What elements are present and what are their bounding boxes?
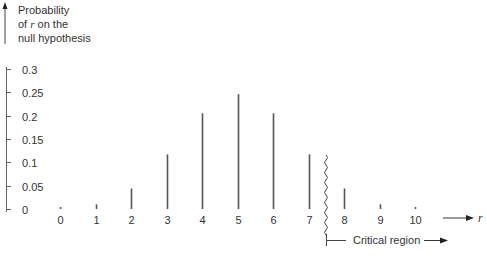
x-tick-label: 8 xyxy=(341,214,347,226)
y-tick-label: 0.2 xyxy=(22,111,37,123)
y-axis-ticks: 00.050.10.150.20.250.3 xyxy=(7,64,44,216)
bars xyxy=(61,94,416,209)
y-tick-label: 0.05 xyxy=(22,181,43,193)
x-tick-label: 4 xyxy=(199,214,205,226)
probability-chart: 00.050.10.150.20.250.3 012345678910 r Cr… xyxy=(0,0,487,258)
y-tick-label: 0.15 xyxy=(22,134,43,146)
y-tick-label: 0.1 xyxy=(22,157,37,169)
critical-boundary-wavy-line xyxy=(325,155,328,235)
critical-region-arrow-icon xyxy=(424,238,448,244)
x-tick-label: 1 xyxy=(93,214,99,226)
x-tick-label: 3 xyxy=(164,214,170,226)
x-tick-label: 0 xyxy=(57,214,63,226)
x-tick-label: 2 xyxy=(128,214,134,226)
x-axis-variable: r xyxy=(478,211,483,225)
x-tick-label: 9 xyxy=(377,214,383,226)
x-tick-label: 5 xyxy=(235,214,241,226)
x-tick-label: 10 xyxy=(409,214,421,226)
x-axis-arrow-icon xyxy=(443,215,474,221)
x-tick-label: 6 xyxy=(270,214,276,226)
y-tick-label: 0.3 xyxy=(22,64,37,76)
y-tick-label: 0 xyxy=(22,204,28,216)
y-tick-label: 0.25 xyxy=(22,87,43,99)
x-tick-label: 7 xyxy=(306,214,312,226)
critical-region-label: Critical region xyxy=(353,234,420,246)
y-axis-arrow-icon xyxy=(3,2,8,44)
critical-region-bracket xyxy=(326,234,346,246)
x-axis-labels: 012345678910 xyxy=(57,214,421,226)
